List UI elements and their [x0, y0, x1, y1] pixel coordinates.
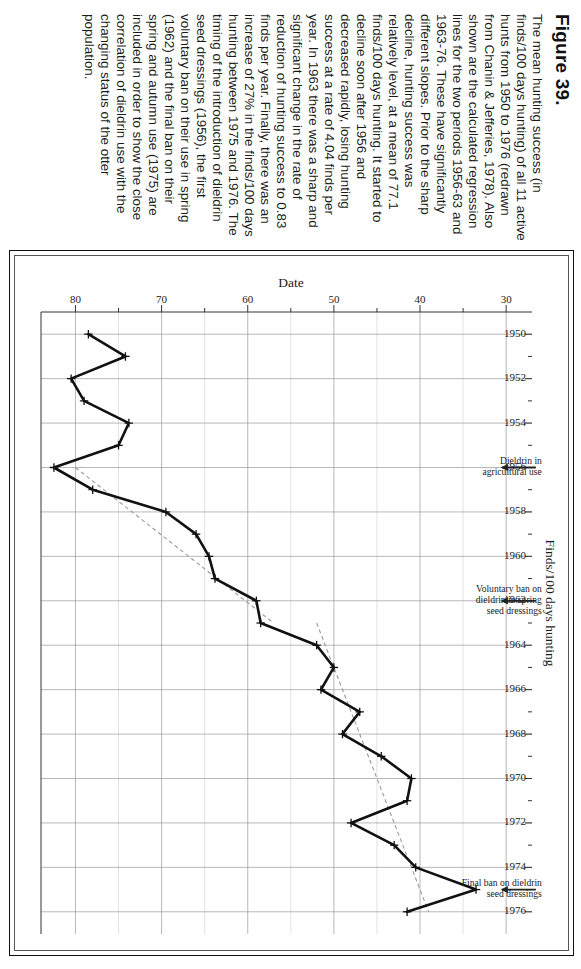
plot-area: Finds/100 days hunting Date 304050607080…	[15, 256, 568, 950]
x-tick-label: 1950	[504, 327, 527, 339]
figure-frame: Finds/100 days hunting Date 304050607080…	[9, 250, 574, 956]
y-tick-label: 50	[328, 293, 340, 305]
x-tick-label: 1968	[504, 727, 527, 739]
y-tick-label: 30	[501, 293, 513, 305]
x-tick-label: 1964	[504, 638, 527, 650]
x-tick-label: 1954	[504, 416, 527, 428]
x-tick-label: 1974	[504, 860, 527, 872]
x-tick-label: 1976	[504, 904, 527, 916]
y-tick-label: 80	[70, 293, 82, 305]
annotation-label: Final ban on dieldrin	[462, 877, 542, 888]
annotation-label: agricultural use	[482, 466, 541, 477]
annotation-label: dieldrin in spring	[476, 594, 542, 605]
figure-page: Figure 39. The mean hunting success (in …	[0, 0, 581, 969]
x-tick-label: 1972	[504, 815, 526, 827]
regression-line	[75, 468, 273, 624]
annotation-label: Dieldrin in	[500, 455, 542, 466]
x-tick-label: 1970	[504, 771, 527, 783]
figure-title: Figure 39.	[551, 14, 573, 242]
x-tick-label: 1960	[504, 549, 527, 561]
figure-inner-border: Finds/100 days hunting Date 304050607080…	[14, 255, 569, 951]
y-tick-label: 70	[156, 293, 168, 305]
x-tick-label: 1966	[504, 682, 527, 694]
x-tick-label: 1952	[504, 371, 526, 383]
annotation-label: Voluntary ban on	[476, 583, 542, 594]
annotation-label: seed dressings	[487, 605, 542, 616]
figure-caption-block: Figure 39. The mean hunting success (in …	[13, 14, 573, 242]
figure-caption-text: The mean hunting success (in finds/100 d…	[81, 14, 545, 242]
y-tick-label: 40	[415, 293, 427, 305]
x-tick-label: 1958	[504, 504, 527, 516]
data-series-line	[54, 334, 476, 912]
y-tick-label: 60	[242, 293, 254, 305]
chart-svg: 3040506070801950195219541956195819601962…	[11, 256, 568, 954]
annotation-label: seed dressings	[487, 888, 542, 899]
